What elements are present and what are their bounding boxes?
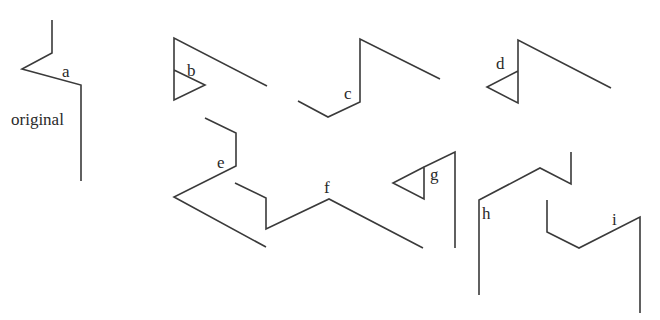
figure-a-label: a (62, 62, 70, 81)
figure-e-label: e (217, 153, 225, 172)
figure-f-label: f (324, 178, 330, 197)
figure-e: e (174, 118, 266, 247)
figure-e-polyline (174, 118, 266, 247)
figure-i: i (547, 200, 640, 313)
figure-g-polyline (393, 152, 455, 248)
figure-c-polyline (298, 39, 440, 117)
figure-b-label: b (187, 61, 196, 80)
figure-g-label: g (430, 165, 439, 184)
figure-h-label: h (482, 204, 491, 223)
original-caption: original (11, 110, 64, 129)
figure-d-polyline (487, 40, 611, 103)
figure-a-polyline (22, 20, 81, 181)
figure-d: d (487, 40, 611, 103)
figure-c: c (298, 39, 440, 117)
figure-h: h (479, 152, 571, 295)
figure-h-polyline (479, 152, 571, 295)
figure-c-label: c (344, 84, 352, 103)
figure-i-label: i (612, 210, 617, 229)
figure-f: f (235, 178, 423, 248)
figure-d-label: d (496, 54, 505, 73)
figure-b: b (174, 38, 267, 100)
figures-svg: aoriginalbcdefghi (0, 0, 660, 320)
diagram-canvas: aoriginalbcdefghi (0, 0, 660, 320)
figure-i-polyline (547, 200, 640, 313)
figure-g: g (393, 152, 455, 248)
figure-a: aoriginal (11, 20, 81, 181)
